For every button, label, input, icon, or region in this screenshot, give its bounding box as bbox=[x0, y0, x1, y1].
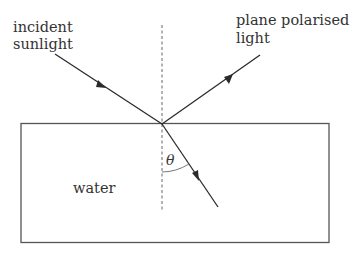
angle-theta-label: θ bbox=[166, 152, 175, 168]
incident-ray bbox=[55, 54, 162, 124]
water-box bbox=[21, 124, 329, 243]
reflection-refraction-diagram: incident sunlight plane polarised light … bbox=[0, 0, 355, 257]
refracted-arrow-icon bbox=[192, 170, 199, 181]
water-label: water bbox=[73, 180, 115, 196]
reflected-label-line2: light bbox=[236, 30, 270, 46]
reflected-ray bbox=[162, 55, 260, 124]
incident-label-line1: incident bbox=[13, 19, 73, 35]
reflected-label-line1: plane polarised bbox=[236, 12, 349, 28]
incident-label-line2: sunlight bbox=[13, 36, 73, 52]
